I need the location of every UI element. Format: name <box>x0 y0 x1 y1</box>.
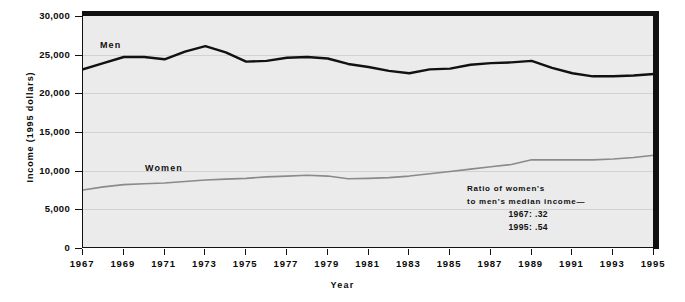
series-label-men: Men <box>100 40 121 50</box>
y-tick-mark <box>75 171 82 172</box>
y-axis-tick-labels: 30,00025,00020,00015,00010,0005,0000 <box>8 0 70 302</box>
x-tick-mark <box>612 249 613 255</box>
y-tick-label: 25,000 <box>8 49 70 60</box>
series-label-women: Women <box>145 163 183 173</box>
y-tick-mark <box>75 132 82 133</box>
ratio-annotation: Ratio of women's to men's median income—… <box>467 182 585 234</box>
x-tick-mark <box>286 249 287 255</box>
x-axis-tick-labels: 1967196919711973197519771979198119831985… <box>0 258 685 272</box>
y-tick-label: 20,000 <box>8 87 70 98</box>
x-tick-mark <box>571 249 572 255</box>
x-tick-label: 1995 <box>623 258 683 269</box>
x-tick-mark <box>82 249 83 255</box>
y-tick-label: 30,000 <box>8 10 70 21</box>
ratio-value-1995: 1995: .54 <box>467 221 585 234</box>
x-tick-mark <box>204 249 205 255</box>
y-tick-mark <box>75 209 82 210</box>
x-axis-title: Year <box>0 280 685 290</box>
x-axis-tick-marks <box>82 249 653 255</box>
y-tick-mark <box>75 16 82 17</box>
y-tick-label: 0 <box>8 242 70 253</box>
x-tick-mark <box>164 249 165 255</box>
men-line <box>83 46 654 76</box>
y-tick-mark <box>75 93 82 94</box>
x-tick-mark <box>123 249 124 255</box>
y-tick-label: 15,000 <box>8 126 70 137</box>
x-tick-mark <box>653 249 654 255</box>
ratio-value-1967: 1967: .32 <box>467 208 585 221</box>
ratio-annotation-line-1: Ratio of women's <box>467 184 545 193</box>
y-tick-label: 5,000 <box>8 203 70 214</box>
income-by-sex-line-chart: Income (1995 dollars) 30,00025,00020,000… <box>0 0 685 302</box>
x-tick-mark <box>408 249 409 255</box>
ratio-annotation-line-2: to men's median income— <box>467 197 585 206</box>
x-tick-mark <box>368 249 369 255</box>
x-tick-mark <box>245 249 246 255</box>
x-tick-mark <box>490 249 491 255</box>
x-tick-mark <box>449 249 450 255</box>
plot-area: Men Women Ratio of women's to men's medi… <box>82 16 653 248</box>
x-tick-mark <box>327 249 328 255</box>
y-tick-label: 10,000 <box>8 165 70 176</box>
x-tick-mark <box>531 249 532 255</box>
y-tick-mark <box>75 55 82 56</box>
y-tick-mark <box>75 248 82 249</box>
